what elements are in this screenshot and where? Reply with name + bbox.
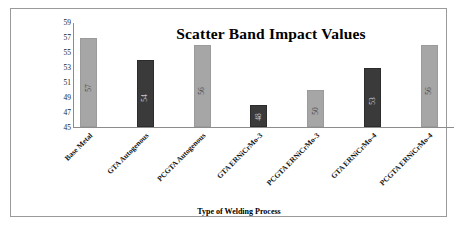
x-axis-tick-labels: Base MetalGTA AutogenousPCGTA Autogenous… [11, 131, 456, 201]
bar-value-label: 48 [255, 113, 263, 121]
y-axis-title: Impact Energy (J) [5, 0, 19, 21]
y-tick-label: 47 [49, 109, 71, 117]
bar: 57 [80, 38, 97, 127]
bar: 53 [364, 68, 381, 127]
bar: 48 [250, 105, 267, 127]
y-tick-label: 59 [49, 19, 71, 27]
y-axis-tick-labels: 5957555351494745 [45, 17, 71, 129]
bar-value-label: 56 [198, 87, 206, 95]
y-tick-label: 55 [49, 49, 71, 57]
bars-layer: 57545648505356 [74, 23, 454, 127]
chart-figure: Scatter Band Impact Values Impact Energy… [0, 0, 456, 231]
bar: 54 [137, 60, 154, 127]
bar-value-label: 56 [425, 87, 433, 95]
bar-rect [80, 38, 97, 127]
bar-value-label: 57 [85, 84, 93, 92]
y-tick-label: 51 [49, 79, 71, 87]
bar-value-label: 50 [312, 107, 320, 115]
y-tick-label: 53 [49, 64, 71, 72]
bar: 50 [307, 90, 324, 127]
y-tick-label: 49 [49, 94, 71, 102]
plot-area: 57545648505356 [73, 23, 454, 128]
bar-value-label: 53 [369, 97, 377, 105]
chart-frame: Scatter Band Impact Values Impact Energy… [10, 8, 447, 217]
x-axis-title: Type of Welding Process [11, 207, 456, 216]
x-tick-label: Base Metal [0, 131, 94, 231]
bar-value-label: 54 [141, 94, 149, 102]
y-tick-label: 57 [49, 34, 71, 42]
bar: 56 [194, 45, 211, 127]
bar: 56 [421, 45, 438, 127]
